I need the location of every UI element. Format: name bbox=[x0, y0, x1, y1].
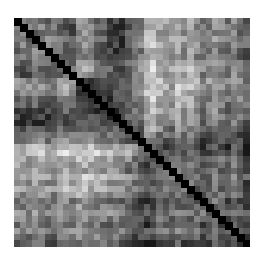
heatmap-matrix-canvas bbox=[14, 18, 250, 247]
heatmap-plot-area bbox=[14, 18, 250, 247]
figure-root: Symmetric grayscale similarity/distance … bbox=[0, 0, 263, 260]
